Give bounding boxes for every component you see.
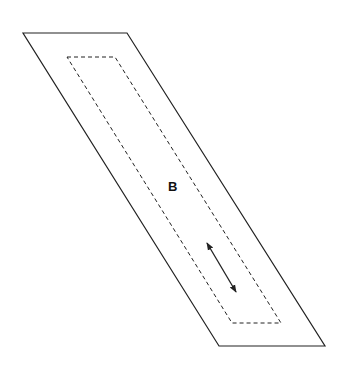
region-label: B: [168, 179, 177, 194]
diagram-canvas: B: [0, 0, 352, 376]
double-arrow: [207, 243, 236, 292]
